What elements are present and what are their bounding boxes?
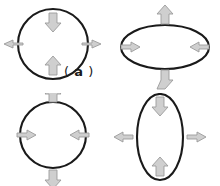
panel-c-bottom-arrow (45, 170, 61, 186)
panel-b-left-arrow (121, 42, 140, 52)
panel-a-left-arrow (4, 40, 23, 48)
panel-a-top-arrow (45, 13, 61, 32)
panel-b: ( b ) (110, 0, 220, 93)
panel-a-label-close-paren: ) (88, 64, 94, 79)
panel-d-right-arrow (187, 132, 206, 142)
panel-a-label: ( a ) (64, 64, 94, 79)
panel-d-left-arrow (114, 132, 133, 142)
panel-d: ( d ) (110, 93, 220, 186)
panel-c: ( c ) (0, 93, 110, 186)
panel-b-bottom-arrow (157, 70, 173, 89)
panel-b-right-arrow (190, 42, 209, 52)
panel-a-bottom-arrow (45, 56, 61, 75)
panel-a: ( a ) (0, 0, 110, 93)
figure-deformation-modes: ( a ) ( b (0, 0, 220, 186)
panel-c-top-arrow (45, 93, 61, 102)
panel-b-top-arrow (157, 5, 173, 24)
panel-d-top-arrow (152, 97, 168, 116)
panel-d-bottom-arrow (152, 157, 168, 176)
panel-a-label-letter: a (74, 64, 83, 79)
panel-a-right-arrow (82, 40, 101, 48)
panel-a-label-open-paren: ( (64, 64, 70, 79)
